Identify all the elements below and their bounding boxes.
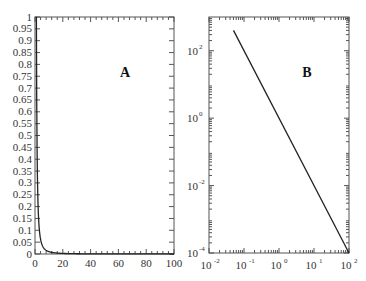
y-tick-exponent: -4 (199, 245, 205, 253)
y-tick-label: 0.6 (18, 105, 32, 117)
y-tick-label: 10 (187, 45, 199, 57)
data-line (233, 30, 349, 253)
x-tick-label: 10 (306, 259, 318, 271)
x-tick-label: 10 (201, 259, 213, 271)
x-tick-label: 100 (166, 257, 183, 269)
y-tick-label: 0.8 (18, 58, 32, 70)
x-tick-exponent: 1 (319, 257, 323, 265)
x-tick-label: 80 (141, 257, 153, 269)
x-tick-label: 10 (236, 259, 248, 271)
y-tick-label: 0.4 (18, 153, 32, 165)
x-tick-exponent: 2 (354, 257, 358, 265)
x-tick-label: 10 (341, 259, 353, 271)
y-tick-exponent: 2 (199, 43, 203, 51)
y-tick-label: 0.5 (18, 129, 32, 141)
panel-b: 10-210-110010110210210010-210-4B (187, 17, 358, 271)
panel-label-a: A (120, 65, 131, 80)
y-tick-label: 0.05 (13, 236, 33, 248)
y-tick-label: 0.55 (13, 117, 33, 129)
x-tick-exponent: -2 (214, 257, 220, 265)
y-tick-exponent: -2 (199, 178, 205, 186)
y-tick-label: 0.35 (13, 165, 33, 177)
y-tick-label: 10 (187, 247, 199, 259)
plot-frame (209, 17, 349, 253)
x-tick-label: 20 (57, 257, 69, 269)
x-tick-exponent: -1 (249, 257, 255, 265)
y-tick-label: 0.45 (13, 141, 33, 153)
y-tick-label: 10 (187, 180, 199, 192)
y-tick-label: 1 (27, 11, 33, 23)
x-tick-label: 40 (85, 257, 97, 269)
plot-frame (35, 17, 174, 254)
y-tick-label: 0.9 (18, 34, 32, 46)
y-tick-label: 0.2 (18, 200, 32, 212)
x-tick-label: 60 (113, 257, 125, 269)
y-tick-exponent: 0 (199, 110, 203, 118)
panel-a: 00.050.10.150.20.250.30.350.40.450.50.55… (13, 11, 183, 270)
y-tick-label: 0.65 (13, 93, 33, 105)
y-tick-label: 0.15 (13, 212, 33, 224)
x-tick-exponent: 0 (284, 257, 288, 265)
y-tick-label: 0.75 (13, 70, 33, 82)
chart-figure: 00.050.10.150.20.250.30.350.40.450.50.55… (0, 0, 366, 281)
y-tick-label: 0.85 (13, 46, 33, 58)
data-curve (36, 17, 174, 254)
y-tick-label: 0.3 (18, 176, 32, 188)
y-tick-label: 10 (187, 112, 199, 124)
y-tick-label: 0.25 (13, 188, 33, 200)
y-tick-label: 0.7 (18, 82, 32, 94)
panel-label-b: B (302, 65, 311, 80)
y-tick-label: 0.1 (18, 224, 32, 236)
x-tick-label: 10 (271, 259, 283, 271)
y-tick-label: 0.95 (13, 22, 33, 34)
x-tick-label: 0 (32, 257, 38, 269)
